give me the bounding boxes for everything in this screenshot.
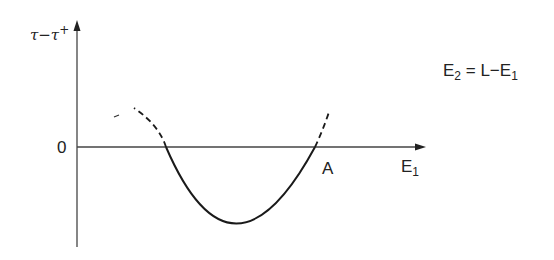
y-axis-label: τ−τ+ bbox=[30, 24, 69, 43]
x-axis-label: E1 bbox=[401, 158, 419, 178]
stray-mark bbox=[114, 115, 119, 117]
curve-solid bbox=[166, 147, 315, 224]
curve-dashed-left bbox=[134, 108, 166, 147]
y-axis-arrow-icon bbox=[74, 20, 81, 31]
equation-label: E2 = L−E1 bbox=[443, 62, 518, 82]
diagram-canvas bbox=[0, 0, 554, 260]
origin-label: 0 bbox=[57, 139, 66, 156]
point-a-label: A bbox=[322, 160, 333, 177]
curve-dashed-right bbox=[315, 112, 329, 147]
x-axis-arrow-icon bbox=[415, 144, 426, 151]
